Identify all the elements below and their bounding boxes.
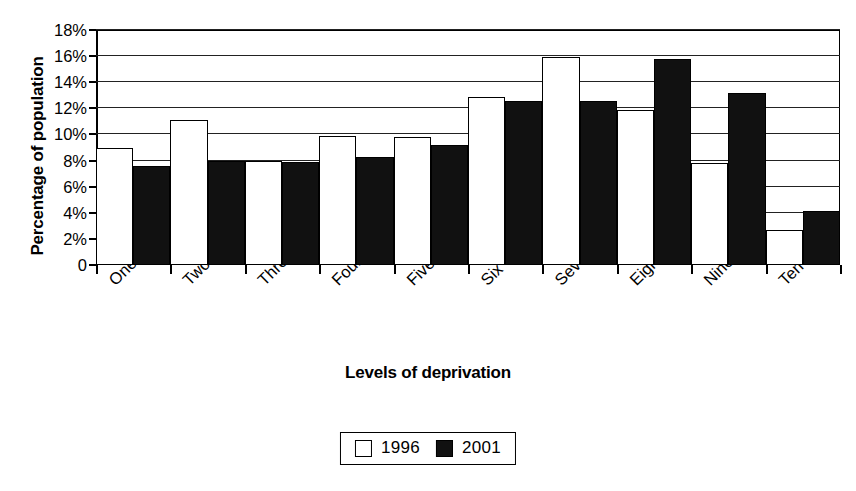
bar-group: [319, 30, 393, 265]
y-tick-label: 12%: [54, 99, 87, 118]
y-tick-label: 10%: [54, 125, 87, 144]
x-axis-category-labels: OneTwoThreeFourFiveSixSevenEightNineTen: [96, 276, 840, 346]
bar-group: [617, 30, 691, 265]
y-tick-label: 6%: [63, 177, 87, 196]
y-tick-mark: [89, 186, 96, 188]
y-tick-label: 0: [78, 256, 87, 275]
x-tick-mark: [766, 265, 768, 274]
bar-2001-one: [133, 166, 170, 265]
bar-chart: Percentage of population 02%4%6%8%10%12%…: [0, 0, 856, 491]
bar-1996-two: [170, 120, 207, 265]
x-tick-mark: [468, 265, 470, 274]
bar-group: [691, 30, 765, 265]
y-tick-mark: [89, 133, 96, 135]
bar-1996-one: [96, 148, 133, 266]
bar-1996-eight: [617, 110, 654, 265]
bar-group: [766, 30, 840, 265]
x-tick-mark: [840, 265, 842, 274]
x-tick-mark: [691, 265, 693, 274]
plot-area: 02%4%6%8%10%12%14%16%18%: [96, 30, 840, 265]
x-tick-mark: [617, 265, 619, 274]
y-tick-mark: [89, 81, 96, 83]
bar-group: [542, 30, 616, 265]
y-tick-mark: [89, 212, 96, 214]
bar-1996-six: [468, 97, 505, 265]
legend-label-1996: 1996: [381, 438, 420, 458]
bar-group: [96, 30, 170, 265]
x-tick-mark: [170, 265, 172, 274]
legend-swatch-2001: [436, 440, 453, 457]
bar-1996-ten: [766, 230, 803, 265]
y-tick-label: 14%: [54, 73, 87, 92]
chart-legend: 19962001: [340, 432, 516, 465]
y-tick-label: 18%: [54, 21, 87, 40]
legend-entry-1996: 1996: [355, 438, 420, 458]
bar-2001-nine: [728, 93, 765, 265]
x-tick-mark: [542, 265, 544, 274]
y-axis-title: Percentage of population: [28, 26, 48, 286]
y-tick-label: 2%: [63, 229, 87, 248]
bar-group: [394, 30, 468, 265]
bar-2001-seven: [580, 101, 617, 266]
legend-entry-2001: 2001: [436, 438, 501, 458]
y-tick-label: 16%: [54, 47, 87, 66]
y-tick-mark: [89, 29, 96, 31]
y-tick-label: 8%: [63, 151, 87, 170]
x-tick-mark: [394, 265, 396, 274]
bar-2001-eight: [654, 59, 691, 265]
x-tick-mark: [245, 265, 247, 274]
bar-2001-six: [505, 101, 542, 266]
bar-2001-two: [208, 161, 245, 265]
bar-1996-five: [394, 137, 431, 265]
bar-series-layer: [96, 30, 840, 265]
y-tick-label: 4%: [63, 203, 87, 222]
bar-2001-four: [356, 157, 393, 265]
y-tick-mark: [89, 264, 96, 266]
legend-label-2001: 2001: [462, 438, 501, 458]
x-axis-title: Levels of deprivation: [0, 363, 856, 383]
bar-group: [170, 30, 244, 265]
x-tick-mark: [319, 265, 321, 274]
bar-1996-nine: [691, 163, 728, 265]
y-tick-mark: [89, 238, 96, 240]
x-tick-mark: [96, 265, 98, 274]
bar-group: [245, 30, 319, 265]
bar-2001-three: [282, 162, 319, 265]
bar-1996-seven: [542, 57, 579, 265]
bar-1996-four: [319, 136, 356, 265]
bar-group: [468, 30, 542, 265]
legend-swatch-1996: [355, 440, 372, 457]
bar-2001-ten: [803, 211, 840, 265]
y-tick-mark: [89, 107, 96, 109]
bar-2001-five: [431, 145, 468, 265]
y-tick-mark: [89, 55, 96, 57]
y-tick-mark: [89, 160, 96, 162]
bar-1996-three: [245, 161, 282, 265]
